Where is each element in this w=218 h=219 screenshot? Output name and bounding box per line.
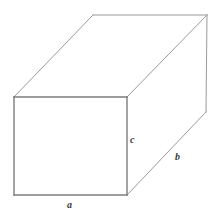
dimension-label-a: a: [67, 200, 72, 210]
figure-container: a b c: [0, 0, 218, 219]
dimension-label-c: c: [130, 135, 134, 145]
box-face-front: [14, 97, 127, 195]
rectangular-box-drawing: [0, 0, 218, 219]
dimension-label-b: b: [175, 152, 180, 162]
